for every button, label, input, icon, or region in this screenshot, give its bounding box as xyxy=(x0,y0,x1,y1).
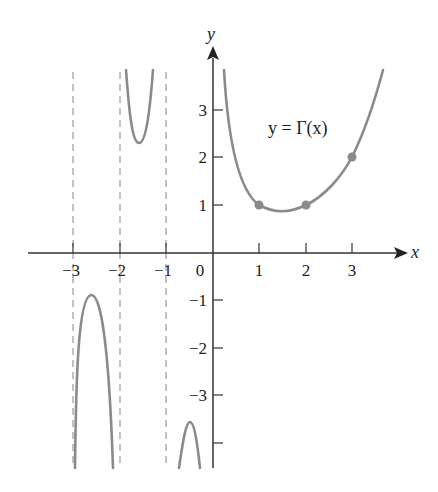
axes xyxy=(28,58,398,468)
svg-text:−1: −1 xyxy=(154,261,172,280)
svg-text:2: 2 xyxy=(199,148,208,167)
svg-text:3: 3 xyxy=(348,261,357,280)
svg-text:−2: −2 xyxy=(108,261,126,280)
svg-text:0: 0 xyxy=(196,261,205,280)
svg-text:2: 2 xyxy=(302,261,311,280)
point-3-2 xyxy=(348,153,357,162)
highlighted-points xyxy=(255,153,357,210)
point-2-1 xyxy=(302,201,311,210)
curve-branch-neg3-neg2 xyxy=(75,295,113,468)
svg-text:1: 1 xyxy=(199,196,208,215)
curve-branch-neg2-neg1 xyxy=(126,70,153,143)
svg-text:1: 1 xyxy=(255,261,264,280)
svg-text:−1: −1 xyxy=(189,291,207,310)
curve-positive-branch xyxy=(224,70,383,211)
x-axis-label: x xyxy=(410,242,419,262)
svg-text:−3: −3 xyxy=(62,261,80,280)
y-ticks xyxy=(213,110,223,443)
svg-text:3: 3 xyxy=(199,101,208,120)
x-tick-labels: −3 −2 −1 0 1 2 3 xyxy=(62,261,356,280)
function-label: y = Γ(x) xyxy=(268,118,328,139)
gamma-function-chart: −3 −2 −1 0 1 2 3 3 2 1 −1 −2 −3 x y y = … xyxy=(0,0,438,492)
curve-branch-neg1-0 xyxy=(179,422,200,468)
y-axis-arrow-icon xyxy=(207,46,219,60)
svg-text:−2: −2 xyxy=(189,339,207,358)
y-axis-label: y xyxy=(205,24,215,44)
svg-text:−3: −3 xyxy=(189,386,207,405)
point-1-1 xyxy=(255,201,264,210)
